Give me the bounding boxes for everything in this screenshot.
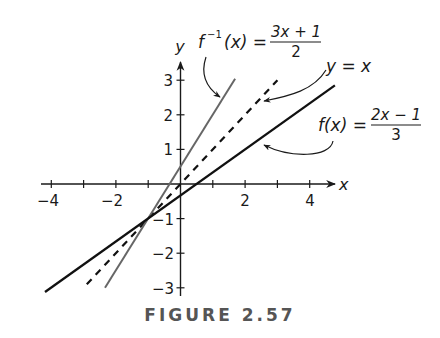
x-tick-label: −4 [37, 192, 59, 210]
identity-annotation-arrow [264, 70, 326, 101]
inverse-label-arg: (x) = [224, 32, 267, 52]
inverse-label: f −1 (x) = 3x + 1 2 [198, 23, 321, 61]
x-tick-label: 4 [305, 192, 315, 210]
inverse-annotation-arrow [204, 57, 220, 97]
y-tick-label: 3 [163, 72, 173, 90]
y-tick-label: 2 [163, 107, 173, 125]
y-tick-label: −2 [152, 245, 174, 263]
inverse-label-superscript: −1 [207, 29, 222, 40]
inverse-label-f: f [198, 32, 207, 52]
x-axis-label: x [338, 175, 349, 194]
function-label-numerator: 2x − 1 [371, 106, 421, 124]
figure-caption: FIGURE 2.57 [0, 305, 440, 325]
x-tick-label: 2 [240, 192, 250, 210]
y-tick-label: 1 [163, 141, 173, 159]
function-annotation-arrow [264, 141, 333, 154]
function-line [45, 85, 335, 292]
figure-plot: −4 −2 2 4 x 3 2 1 −1 −2 −3 y f −1 [0, 0, 440, 338]
inverse-label-denominator: 2 [291, 43, 301, 61]
inverse-label-numerator: 3x + 1 [271, 23, 321, 41]
function-label-lhs: f(x) = [318, 115, 367, 135]
function-label-denominator: 3 [391, 126, 401, 144]
y-tick-label: −3 [152, 280, 174, 298]
x-axis: −4 −2 2 4 x [37, 175, 349, 210]
identity-label: y = x [325, 56, 372, 76]
y-axis-label: y [174, 37, 185, 56]
function-label: f(x) = 2x − 1 3 [318, 106, 421, 144]
x-tick-label: −2 [101, 192, 123, 210]
